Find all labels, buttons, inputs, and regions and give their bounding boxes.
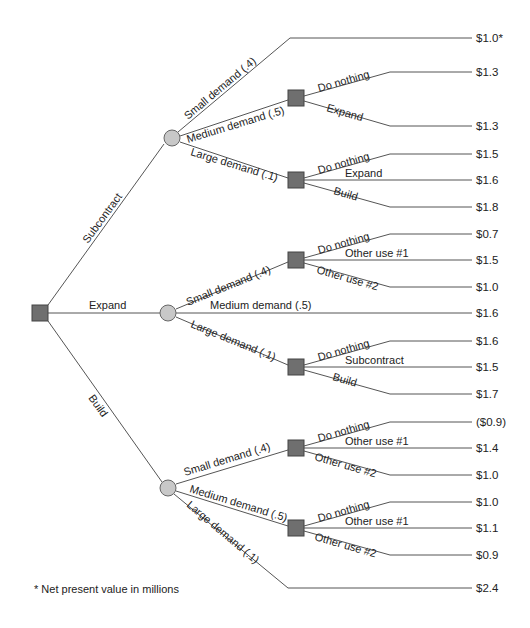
option-label: Other use #2	[313, 450, 377, 479]
root-decision-node	[32, 305, 48, 321]
footnote: * Net present value in millions	[34, 583, 179, 595]
option-label: Other use #2	[315, 263, 379, 292]
payoff-value: $1.5	[476, 361, 498, 373]
option-label: Other use #1	[345, 435, 409, 447]
decision-node	[288, 252, 304, 268]
payoff-value: $1.8	[476, 201, 498, 213]
option-label: Other use #2	[313, 530, 377, 559]
chance-node-subcontract	[164, 130, 180, 146]
payoff-value: $1.0	[476, 496, 498, 508]
decision-node	[288, 90, 304, 106]
decision-node	[288, 520, 304, 536]
branch-subcontract	[48, 144, 164, 305]
payoff-value: $1.5	[476, 254, 498, 266]
label-exp-medium: Medium demand (.5)	[210, 299, 312, 311]
option-label: Subcontract	[345, 354, 404, 366]
payoff-value: $1.6	[476, 335, 498, 347]
option-label: Other use #1	[345, 247, 409, 259]
option-label: Build	[331, 370, 358, 388]
decision-node	[288, 440, 304, 456]
decision-node	[288, 359, 304, 375]
option-line	[304, 183, 472, 207]
label-subcontract: Subcontract	[80, 191, 124, 246]
decision-node	[288, 172, 304, 188]
option-label: Other use #1	[345, 515, 409, 527]
option-label: Build	[332, 184, 359, 202]
payoff-value: ($0.9)	[476, 416, 506, 428]
payoff-value: $0.9	[476, 549, 498, 561]
option-label: Expand	[325, 101, 364, 123]
label-expand: Expand	[89, 299, 126, 311]
branch-build	[48, 321, 162, 482]
chance-node-expand	[160, 305, 176, 321]
option-line	[304, 370, 472, 394]
label-build: Build	[86, 392, 110, 419]
label-sub-large: Large demand (.1)	[189, 145, 279, 183]
payoff-value: $1.6	[476, 307, 498, 319]
payoff-value: $1.0*	[476, 32, 503, 44]
decision-tree-diagram: Subcontract Expand Build Small demand (.…	[0, 0, 530, 628]
label-exp-large: Large demand (.1)	[189, 318, 277, 363]
payoff-value: $1.1	[476, 522, 498, 534]
chance-node-build	[160, 480, 176, 496]
payoff-value: $1.4	[476, 442, 499, 454]
option-label: Do nothing	[316, 68, 370, 94]
payoff-value: $1.3	[476, 120, 498, 132]
payoff-value: $1.0	[476, 281, 498, 293]
option-label: Expand	[345, 167, 382, 179]
payoff-value: $1.5	[476, 148, 498, 160]
payoff-value: $1.6	[476, 174, 498, 186]
label-sub-small: Small demand (.4)	[182, 55, 259, 122]
payoff-value: $2.4	[476, 582, 499, 594]
payoff-value: $1.7	[476, 388, 498, 400]
payoff-value: $0.7	[476, 228, 498, 240]
payoff-value: $1.0	[476, 469, 498, 481]
payoff-value: $1.3	[476, 66, 498, 78]
